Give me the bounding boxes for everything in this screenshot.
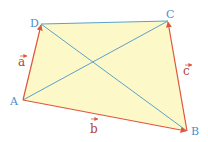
vertex-label-b: B	[191, 125, 199, 138]
vector-label-a: a	[18, 55, 25, 69]
quadrilateral-diagram: A B C D a b c	[0, 0, 208, 142]
vector-label-b-group: b	[90, 119, 98, 136]
quadrilateral-fill	[23, 21, 187, 131]
vertex-label-a: A	[9, 95, 19, 108]
vertex-label-c: C	[166, 8, 174, 21]
vector-label-c: c	[183, 64, 190, 78]
vertex-label-d: D	[30, 17, 39, 30]
vector-label-b: b	[90, 122, 98, 136]
vector-label-a-group: a	[18, 55, 27, 69]
vector-label-c-group: c	[183, 64, 192, 78]
